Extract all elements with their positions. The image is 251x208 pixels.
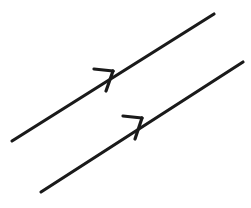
vector-lower-arrowhead-barb-upper [123,116,142,118]
diagram-canvas-container [0,0,251,208]
parallel-vectors-diagram [0,0,251,208]
diagram-background [0,0,251,208]
vector-upper-arrowhead-barb-upper [94,69,113,71]
